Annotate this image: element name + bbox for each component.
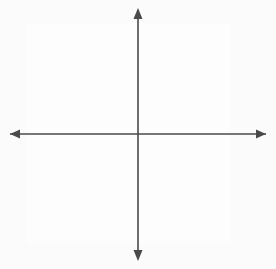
geometry-figure-container xyxy=(0,0,276,269)
grid-background xyxy=(27,23,231,243)
coordinate-plane-diagram xyxy=(0,0,276,269)
